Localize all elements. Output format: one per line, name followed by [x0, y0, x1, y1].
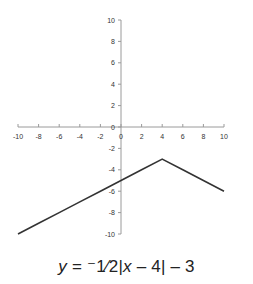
x-tick-label: 10: [220, 133, 228, 140]
y-tick-label: 6: [111, 59, 115, 66]
equation-coefficient: ⁻1⁄2|: [87, 257, 123, 276]
equation-equals: =: [67, 257, 87, 276]
equation-lhs: y: [58, 257, 67, 276]
y-tick-label: 0: [111, 124, 115, 131]
x-tick-label: 4: [160, 133, 164, 140]
function-graph: -10-8-6-4-20246810 1086420-2-4-6-8-10: [0, 0, 253, 284]
x-tick-label: -8: [35, 133, 41, 140]
y-tick-label: 10: [107, 17, 115, 24]
x-tick-label: 2: [140, 133, 144, 140]
equation-rest: – 4| – 3: [132, 257, 195, 276]
y-tick-label: -4: [109, 166, 115, 173]
equation-caption: y = ⁻1⁄2|x – 4| – 3: [0, 256, 253, 277]
x-tick-label: 0: [119, 133, 123, 140]
x-tick-label: 8: [201, 133, 205, 140]
y-tick-label: -2: [109, 145, 115, 152]
y-tick-label: 8: [111, 38, 115, 45]
y-tick-label: -6: [109, 188, 115, 195]
x-tick-label: -2: [97, 133, 103, 140]
x-tick-label: -4: [77, 133, 83, 140]
y-tick-label: 2: [111, 102, 115, 109]
y-tick-label: -8: [109, 209, 115, 216]
x-tick-label: 6: [181, 133, 185, 140]
y-tick-label: 4: [111, 81, 115, 88]
x-tick-label: -10: [13, 133, 23, 140]
equation-variable-x: x: [123, 257, 132, 276]
x-tick-label: -6: [56, 133, 62, 140]
y-tick-label: -10: [105, 231, 115, 238]
x-axis-ticks: -10-8-6-4-20246810: [13, 124, 228, 140]
